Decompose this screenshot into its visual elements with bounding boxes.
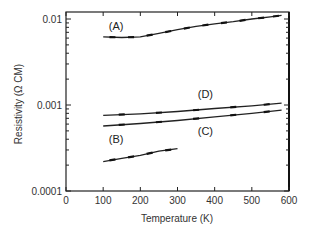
data-marker: [264, 104, 270, 105]
series-line-c: [103, 110, 281, 126]
series-label-a: (A): [109, 20, 124, 32]
resistivity-chart: 0100200300400500600 0.00010.0010.01 (A)(…: [0, 0, 315, 235]
data-marker: [165, 150, 171, 151]
data-marker: [258, 18, 264, 19]
x-tick-label: 500: [243, 195, 260, 206]
x-tick-label: 300: [169, 195, 186, 206]
series-label-b: (B): [109, 133, 124, 145]
y-axis-label: Resistivity (Ω CM): [13, 64, 24, 144]
y-tick-label: 0.0001: [31, 186, 62, 197]
data-marker: [230, 115, 236, 116]
series-lines: [103, 15, 281, 161]
axis-ticks: [66, 12, 289, 191]
x-tick-label: 0: [63, 195, 69, 206]
x-axis-label: Temperature (K): [141, 213, 213, 224]
data-marker: [202, 25, 208, 26]
data-marker: [165, 31, 171, 32]
plot-border: [66, 12, 289, 191]
x-tick-label: 200: [132, 195, 149, 206]
x-tick-label: 400: [206, 195, 223, 206]
data-marker: [184, 28, 190, 29]
x-tick-label: 100: [95, 195, 112, 206]
data-marker: [193, 118, 199, 119]
x-tick-labels: 0100200300400500600: [63, 195, 298, 206]
data-marker: [128, 156, 134, 157]
data-marker: [147, 35, 153, 36]
plot-frame: [66, 12, 289, 191]
data-marker: [147, 153, 153, 154]
data-marker: [109, 159, 115, 160]
series-label-d: (D): [198, 88, 213, 100]
y-tick-label: 0.001: [37, 100, 62, 111]
data-marker: [264, 111, 270, 112]
x-tick-label: 600: [281, 195, 298, 206]
data-marker: [221, 22, 227, 23]
y-tick-label: 0.01: [43, 14, 63, 25]
series-label-c: (C): [198, 125, 213, 137]
series-line-a: [103, 15, 281, 37]
data-marker: [240, 20, 246, 21]
y-tick-labels: 0.00010.0010.01: [31, 14, 62, 197]
series-labels: (A)(B)(C)(D): [109, 20, 213, 145]
data-marker: [273, 16, 279, 17]
